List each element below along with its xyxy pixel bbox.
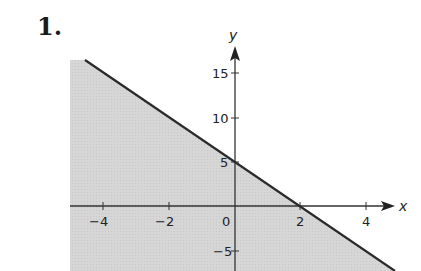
y-tick-label: 15 (212, 66, 229, 81)
y-tick-label: 10 (212, 111, 229, 126)
x-tick-label: 4 (362, 214, 370, 229)
y-tick-label: −5 (213, 244, 232, 259)
x-tick-label: −4 (89, 214, 108, 229)
x-tick-label: 2 (296, 214, 304, 229)
x-axis-label: x (398, 198, 408, 214)
inequality-graph: x y −4 −2 0 2 4 15 10 5 −5 (0, 0, 421, 271)
shaded-region (70, 60, 395, 271)
y-axis-label: y (228, 27, 238, 43)
x-tick-label: 0 (222, 214, 230, 229)
x-tick-label: −2 (155, 214, 174, 229)
